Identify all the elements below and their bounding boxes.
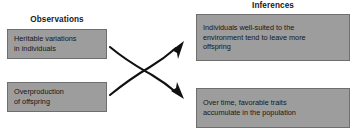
column-header-observations: Observations [7,15,107,24]
arrow-heritable-to-favorable [110,47,184,99]
node-box-favorable-traits: Over time, favorable traits accumulate i… [196,88,350,128]
node-label-well-suited-individuals: Individuals well-suited to the environme… [197,23,312,52]
node-label-favorable-traits: Over time, favorable traits accumulate i… [197,98,302,117]
node-box-heritable-variations: Heritable variations in individuals [7,29,107,59]
node-box-well-suited-individuals: Individuals well-suited to the environme… [196,14,350,61]
diagram-canvas: Observations Inferences Heritable variat… [0,0,354,135]
node-label-overproduction: Overproduction of offspring [8,87,70,106]
column-header-inferences: Inferences [196,1,350,10]
node-box-overproduction: Overproduction of offspring [7,82,107,112]
arrow-overproduction-to-wellsuited [110,41,184,95]
node-label-heritable-variations: Heritable variations in individuals [8,34,82,53]
